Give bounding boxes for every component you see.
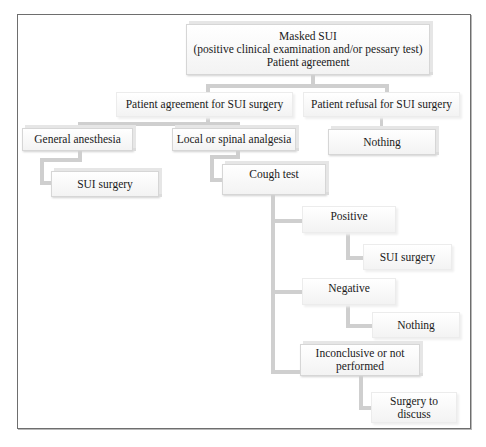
box-general-sui-surgery: SUI surgery (51, 171, 159, 197)
negative-label: Negative (328, 282, 370, 295)
connector-to-negative (271, 290, 303, 294)
box-cough-test: Cough test (222, 164, 326, 195)
connector-to-positive (271, 219, 303, 223)
box-positive: Positive (302, 206, 396, 233)
root-line-1: Masked SUI (279, 30, 337, 43)
connector-general-h1 (40, 158, 82, 162)
connector-level2-horizontal (78, 122, 240, 126)
connector-positive-h (346, 256, 364, 260)
box-positive-sui-surgery: SUI surgery (363, 244, 452, 270)
general-anesthesia-label: General anesthesia (34, 133, 121, 146)
patient-agreement-label: Patient agreement for SUI surgery (126, 98, 284, 111)
connector-local-h1 (210, 155, 240, 159)
box-negative: Negative (302, 278, 396, 305)
negative-outcome-label: Nothing (397, 319, 435, 332)
inconclusive-line-2: performed (336, 360, 384, 373)
box-negative-nothing: Nothing (372, 312, 460, 338)
connector-level1-horizontal (206, 84, 389, 88)
local-analgesia-label: Local or spinal analgesia (177, 133, 292, 146)
refusal-nothing-label: Nothing (363, 136, 401, 149)
positive-label: Positive (330, 210, 367, 223)
cough-test-label: Cough test (249, 168, 299, 181)
inconclusive-line-1: Inconclusive or not (316, 347, 405, 360)
connector-negative-h (346, 324, 373, 328)
box-inconclusive: Inconclusive or not performed (300, 344, 420, 376)
box-patient-refusal: Patient refusal for SUI surgery (303, 92, 460, 117)
box-surgery-to-discuss: Surgery to discuss (371, 392, 457, 423)
root-box-masked-sui: Masked SUI (positive clinical examinatio… (186, 24, 430, 75)
connector-inconclusive-down (359, 376, 363, 410)
box-general-anesthesia: General anesthesia (22, 128, 133, 151)
surgery-discuss-line-1: Surgery to (390, 395, 438, 408)
patient-refusal-label: Patient refusal for SUI surgery (311, 98, 452, 111)
general-sui-surgery-label: SUI surgery (77, 178, 133, 191)
box-local-spinal-analgesia: Local or spinal analgesia (172, 128, 296, 151)
positive-outcome-label: SUI surgery (380, 251, 436, 264)
root-line-2: (positive clinical examination and/or pe… (194, 43, 423, 56)
surgery-discuss-line-2: discuss (397, 408, 430, 421)
connector-to-inconclusive (271, 370, 301, 374)
root-line-3: Patient agreement (267, 56, 350, 69)
box-patient-agreement: Patient agreement for SUI surgery (116, 92, 293, 117)
connector-refusal-to-nothing (380, 117, 383, 129)
box-refusal-nothing: Nothing (328, 129, 436, 155)
